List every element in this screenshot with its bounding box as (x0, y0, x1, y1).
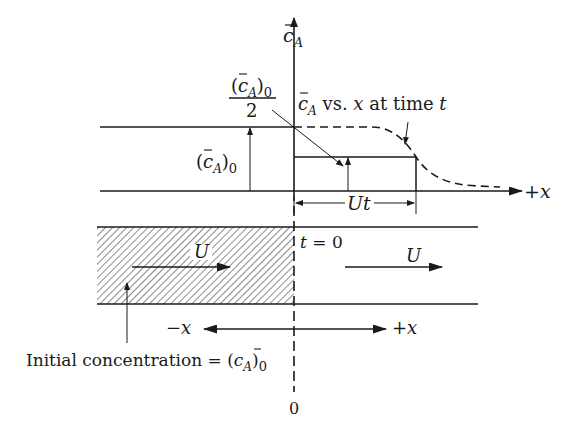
curve-label: cA vs. x at time t (298, 93, 447, 118)
svg-text:cA vs. x at time t: cA vs. x at time t (298, 93, 447, 118)
dispersion-diagram: cA +x (cA)0 (cA)0 2 cA vs. x at time t (0, 0, 570, 436)
ut-label: Ut (347, 192, 371, 214)
pipe-schematic: U U t = 0 0 −x +x Initial concentration … (26, 191, 478, 418)
initial-conc-label: (cA)0 (196, 151, 237, 176)
velocity-right-label: U (406, 245, 422, 266)
y-axis-label: cA (283, 24, 303, 50)
svg-text:(cA)0: (cA)0 (231, 75, 272, 100)
plus-x-label: +x (392, 317, 417, 338)
origin-label: 0 (289, 399, 299, 418)
time-zero-label: t = 0 (300, 232, 343, 252)
svg-text:2: 2 (246, 100, 257, 121)
curve-label-pointer (405, 122, 408, 144)
x-axis-label: +x (524, 180, 551, 202)
concentration-profile-plot: cA +x (cA)0 (cA)0 2 cA vs. x at time t (100, 18, 551, 214)
plug-profile (294, 157, 416, 191)
minus-x-label: −x (166, 317, 191, 338)
initial-concentration-label: Initial concentration = (cA)0 (26, 350, 267, 374)
half-conc-label: (cA)0 2 (229, 74, 276, 121)
velocity-left-label: U (194, 241, 210, 262)
